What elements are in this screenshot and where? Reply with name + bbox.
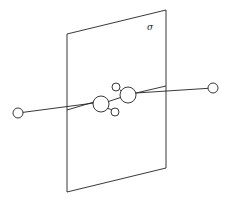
mirror-plane	[67, 10, 166, 192]
left-terminal-atom	[13, 108, 23, 118]
central-atom-right	[120, 87, 136, 103]
upper-substituent-atom	[112, 83, 120, 91]
right-terminal-atom	[208, 83, 218, 93]
mirror-plane-diagram: σ	[0, 0, 231, 202]
lower-substituent-atom	[111, 108, 119, 116]
bond-left-terminal	[18, 103, 94, 113]
central-atom-left	[93, 96, 109, 112]
plane-label: σ	[147, 22, 154, 32]
